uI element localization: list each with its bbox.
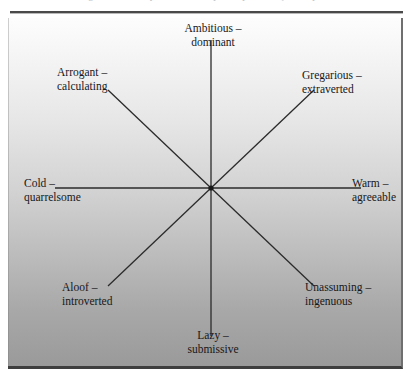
pole-label-line1: Gregarious – <box>302 69 406 83</box>
pole-label-line2: introverted <box>62 295 144 309</box>
figure-caption-strip: Figure . The interpersonal circumplex of… <box>0 0 413 9</box>
pole-label-arrogant-calculating: Arrogant – calculating <box>57 66 145 93</box>
pole-label-line1: Aloof – <box>62 281 144 295</box>
pole-label-unassuming-ingenuous: Unassuming – ingenuous <box>305 281 405 308</box>
axes-center-point <box>208 185 213 190</box>
pole-label-line1: Cold – <box>24 177 104 191</box>
pole-label-line1: Warm – <box>352 177 412 191</box>
pole-label-line1: Lazy – <box>174 329 252 343</box>
pole-label-line2: calculating <box>57 80 145 94</box>
pole-label-aloof-introverted: Aloof – introverted <box>62 281 144 308</box>
pole-label-line1: Unassuming – <box>305 281 405 295</box>
pole-label-line1: Ambitious – <box>165 22 261 36</box>
pole-label-line2: extraverted <box>302 83 406 97</box>
figure-root: Figure . The interpersonal circumplex of… <box>0 0 413 377</box>
pole-label-cold-quarrelsome: Cold – quarrelsome <box>24 177 104 204</box>
pole-label-ambitious-dominant: Ambitious – dominant <box>165 22 261 49</box>
pole-label-line2: submissive <box>174 343 252 357</box>
pole-label-lazy-submissive: Lazy – submissive <box>174 329 252 356</box>
pole-label-line2: agreeable <box>352 191 412 205</box>
pole-label-gregarious-extraverted: Gregarious – extraverted <box>302 69 406 96</box>
pole-label-line2: dominant <box>165 36 261 50</box>
pole-label-warm-agreeable: Warm – agreeable <box>352 177 412 204</box>
pole-label-line2: ingenuous <box>305 295 405 309</box>
figure-caption-text: Figure . The interpersonal circumplex of… <box>0 0 413 1</box>
pole-label-line2: quarrelsome <box>24 191 104 205</box>
caption-divider-rule <box>10 11 403 13</box>
pole-label-line1: Arrogant – <box>57 66 145 80</box>
